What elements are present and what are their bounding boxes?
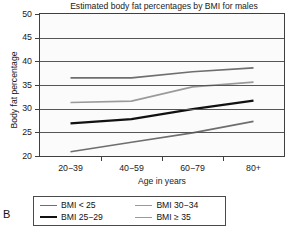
panel-label: B [3, 208, 10, 220]
series-line [71, 101, 254, 124]
x-tick-mark [101, 157, 102, 161]
legend-label: BMI 25−29 [61, 212, 103, 222]
y-tick-label: 35 [10, 81, 32, 90]
gridline [40, 61, 284, 62]
series-line [71, 121, 254, 151]
y-tick-label: 25 [10, 128, 32, 137]
series-line [71, 68, 254, 78]
x-tick-label: 60−79 [163, 163, 223, 173]
gridline [40, 132, 284, 133]
y-tick-label: 20 [10, 152, 32, 161]
legend-entry-bmi-35-plus: BMI ≥ 35 [133, 211, 221, 223]
y-tick-label: 45 [10, 33, 32, 42]
legend-swatch-icon [135, 205, 152, 206]
legend-entry-bmi-30-34: BMI 30−34 [133, 199, 221, 211]
x-tick-label: 20−39 [41, 163, 101, 173]
figure-panel-b: Estimated body fat percentages by BMI fo… [0, 0, 291, 229]
y-tick-label: 30 [10, 104, 32, 113]
x-tick-label: 40−59 [102, 163, 162, 173]
gridline [40, 109, 284, 110]
legend-swatch-icon [40, 216, 57, 218]
gridline [40, 85, 284, 86]
plot-area [39, 13, 285, 157]
legend-row: BMI 25−29 BMI ≥ 35 [38, 211, 221, 223]
legend-label: BMI 30−34 [156, 200, 198, 210]
legend-entry-bmi-25-29: BMI 25−29 [38, 211, 133, 223]
y-tick-label: 50 [10, 10, 32, 19]
chart-title: Estimated body fat percentages by BMI fo… [38, 1, 290, 12]
y-tick-label: 40 [10, 57, 32, 66]
x-tick-label: 80+ [224, 163, 284, 173]
legend-label: BMI < 25 [61, 200, 96, 210]
legend-entry-bmi-under-25: BMI < 25 [38, 199, 133, 211]
legend-swatch-icon [135, 217, 152, 218]
x-tick-mark [162, 157, 163, 161]
legend-label: BMI ≥ 35 [156, 212, 190, 222]
gridline [40, 38, 284, 39]
x-tick-mark [223, 157, 224, 161]
chart-legend: BMI < 25 BMI 30−34 BMI 25−29 BMI ≥ 35 [33, 196, 226, 226]
legend-row: BMI < 25 BMI 30−34 [38, 199, 221, 211]
x-axis-title: Age in years [39, 176, 285, 186]
legend-swatch-icon [40, 205, 57, 206]
